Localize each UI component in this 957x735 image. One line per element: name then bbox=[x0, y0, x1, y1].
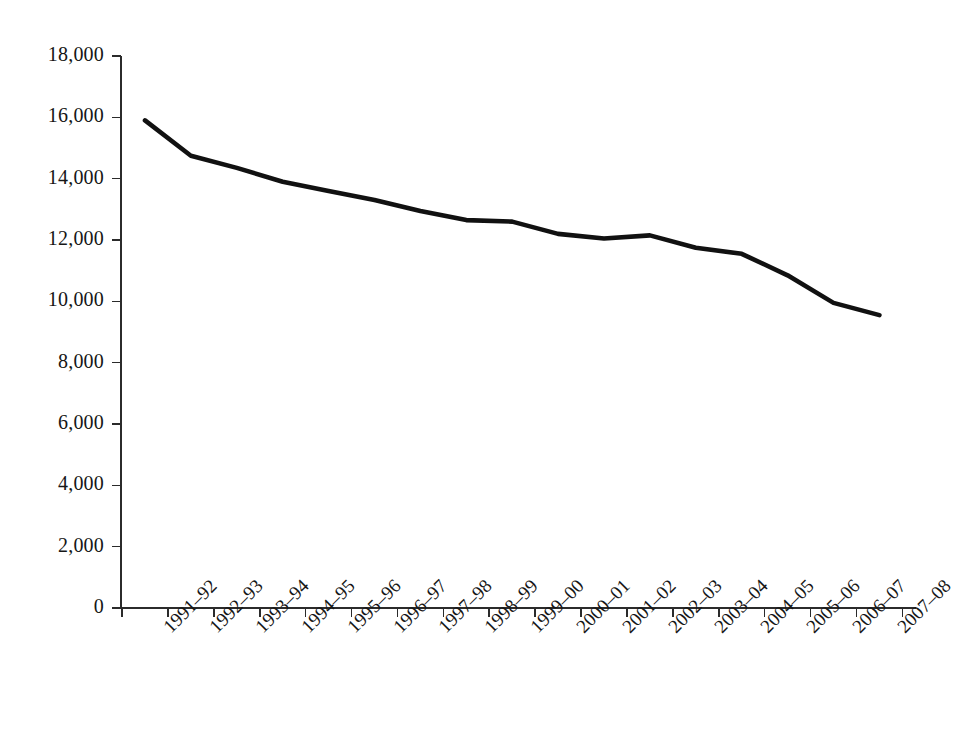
chart-axes bbox=[121, 56, 916, 608]
y-tick-marks bbox=[112, 56, 121, 608]
y-tick-label: 12,000 bbox=[48, 227, 104, 250]
y-tick-label: 18,000 bbox=[48, 43, 104, 66]
y-tick-label: 0 bbox=[94, 595, 104, 618]
y-tick-label: 16,000 bbox=[48, 104, 104, 127]
y-tick-label: 4,000 bbox=[58, 472, 104, 495]
line-chart: 02,0004,0006,0008,00010,00012,00014,0001… bbox=[0, 0, 957, 735]
data-series-group bbox=[145, 120, 879, 315]
y-tick-label: 14,000 bbox=[48, 166, 104, 189]
y-tick-label: 2,000 bbox=[58, 534, 104, 557]
y-tick-label: 8,000 bbox=[58, 350, 104, 373]
data-series-line bbox=[145, 120, 879, 315]
y-tick-label: 6,000 bbox=[58, 411, 104, 434]
y-tick-label: 10,000 bbox=[48, 288, 104, 311]
